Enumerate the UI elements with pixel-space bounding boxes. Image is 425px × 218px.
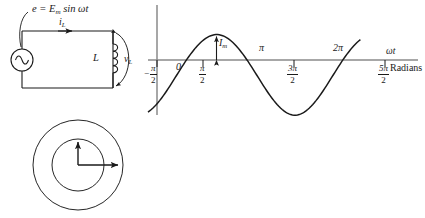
ac-inductor-figure: e = Em sin ωt iL L vL Im 0 π 2π ωt Radia… xyxy=(0,0,425,218)
pi-label: π xyxy=(259,43,264,53)
sine-waveform xyxy=(148,35,360,116)
source-label-leader xyxy=(20,12,28,47)
figure-vector-layer xyxy=(0,0,425,218)
tick-label-3pi-over-2: 3π 2 xyxy=(287,64,298,85)
tick-label-pi-over-2: π 2 xyxy=(199,64,206,85)
waveform-plot xyxy=(148,5,418,115)
ac-source-icon xyxy=(11,49,33,71)
x-axis-ticks xyxy=(157,60,385,67)
amplitude-label: Im xyxy=(219,38,227,50)
source-label: e = Em sin ωt xyxy=(32,4,88,16)
voltage-label: vL xyxy=(124,54,132,66)
two-pi-label: 2π xyxy=(333,43,343,53)
minus-sign-pi-over-2: − xyxy=(144,68,149,78)
circuit-diagram xyxy=(11,12,129,88)
x-axis-name-label: Radians xyxy=(390,63,422,73)
current-label: iL xyxy=(59,17,66,29)
tick-label-5pi-over-2: 5π 2 xyxy=(378,64,389,85)
x-axis-unit-label: ωt xyxy=(386,47,395,57)
inductor-label: L xyxy=(93,53,99,64)
phasor-diagram xyxy=(33,120,123,210)
tick-label-minus-pi-over-2: π 2 xyxy=(150,64,157,85)
inductor-coil-icon xyxy=(113,31,118,88)
zero-tick-label: 0 xyxy=(176,62,181,72)
